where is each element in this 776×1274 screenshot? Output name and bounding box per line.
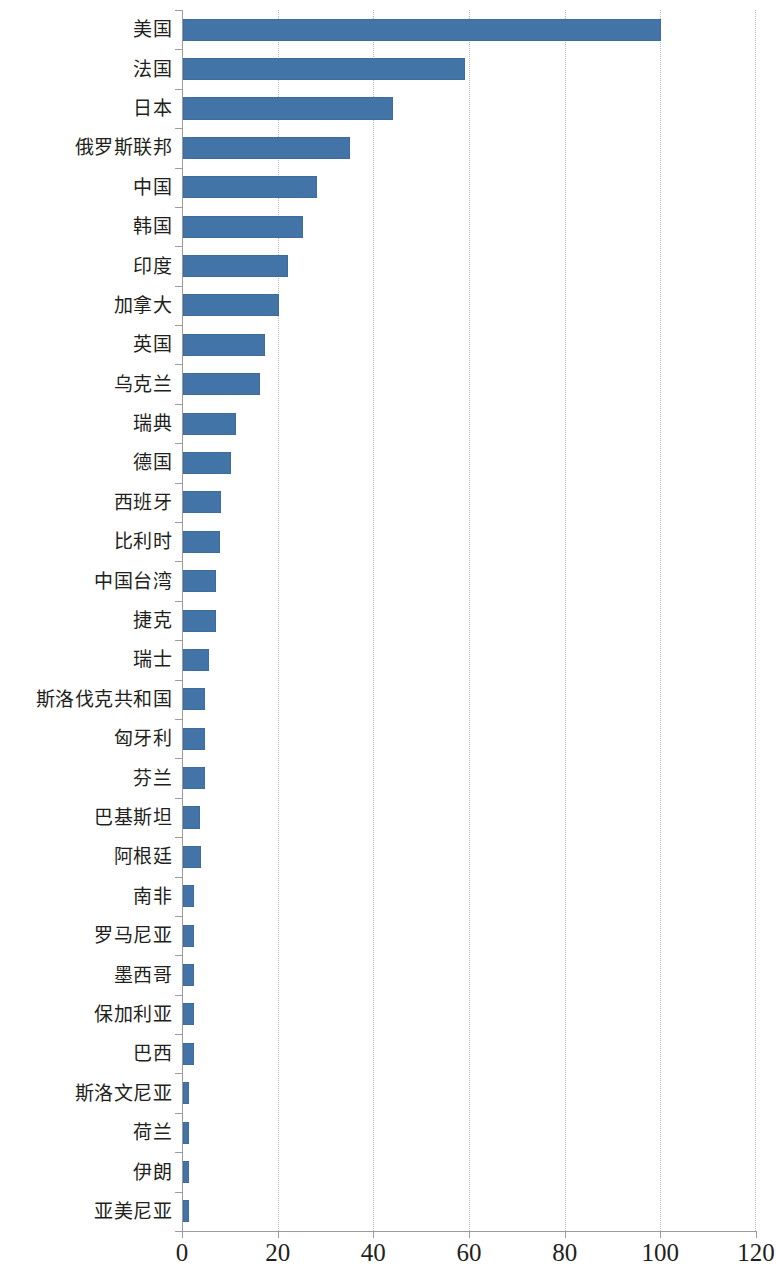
y-axis-tick (175, 561, 182, 562)
bar-row: 韩国 (0, 207, 776, 246)
x-axis-tick-label: 20 (238, 1240, 318, 1265)
bar[interactable] (183, 964, 194, 986)
bar-row: 瑞典 (0, 404, 776, 443)
bar-chart: 美国法国日本俄罗斯联邦中国韩国印度加拿大英国乌克兰瑞典德国西班牙比利时中国台湾捷… (0, 0, 776, 1274)
category-label: 加拿大 (0, 296, 172, 315)
category-label: 墨西哥 (0, 966, 172, 985)
bar-row: 英国 (0, 325, 776, 364)
bar-row: 俄罗斯联邦 (0, 128, 776, 167)
y-axis-tick (175, 483, 182, 484)
y-axis-tick (175, 1231, 182, 1232)
bar-holder (183, 128, 350, 167)
bar[interactable] (183, 97, 393, 119)
category-label: 荷兰 (0, 1123, 172, 1142)
bar-row: 阿根廷 (0, 837, 776, 876)
bar[interactable] (183, 58, 465, 80)
bar[interactable] (183, 728, 205, 750)
bar[interactable] (183, 570, 216, 592)
bar-holder (183, 404, 236, 443)
bar[interactable] (183, 1043, 194, 1065)
bar-row: 比利时 (0, 522, 776, 561)
bar-holder (183, 325, 265, 364)
y-axis-tick (175, 1113, 182, 1114)
x-axis-tick (373, 1231, 374, 1238)
bar[interactable] (183, 491, 221, 513)
bar[interactable] (183, 373, 260, 395)
bar-row: 墨西哥 (0, 955, 776, 994)
bar[interactable] (183, 1200, 189, 1222)
y-axis-tick (175, 877, 182, 878)
bar[interactable] (183, 1003, 194, 1025)
category-label: 印度 (0, 257, 172, 276)
category-label: 斯洛伐克共和国 (0, 690, 172, 709)
y-axis-tick (175, 719, 182, 720)
bar-row: 荷兰 (0, 1113, 776, 1152)
category-label: 南非 (0, 887, 172, 906)
bar-holder (183, 798, 200, 837)
bar[interactable] (183, 531, 220, 553)
category-label: 伊朗 (0, 1163, 172, 1182)
bar-holder (183, 719, 205, 758)
x-axis-tick (660, 1231, 661, 1238)
bar-holder (183, 49, 465, 88)
bar[interactable] (183, 649, 209, 671)
bar[interactable] (183, 19, 661, 41)
x-axis-tick (278, 1231, 279, 1238)
bar-row: 巴基斯坦 (0, 798, 776, 837)
bar-row: 瑞士 (0, 640, 776, 679)
bar[interactable] (183, 610, 216, 632)
bar[interactable] (183, 846, 201, 868)
bar-row: 捷克 (0, 601, 776, 640)
bar[interactable] (183, 1122, 189, 1144)
bar[interactable] (183, 806, 200, 828)
bar-row: 西班牙 (0, 483, 776, 522)
bar-holder (183, 10, 661, 49)
bar-holder (183, 877, 194, 916)
y-axis-tick (175, 798, 182, 799)
category-label: 中国台湾 (0, 572, 172, 591)
bar[interactable] (183, 885, 194, 907)
bar-holder (183, 522, 220, 561)
bar[interactable] (183, 137, 350, 159)
bar-holder (183, 561, 216, 600)
category-label: 芬兰 (0, 769, 172, 788)
y-axis-tick (175, 443, 182, 444)
y-axis-tick (175, 758, 182, 759)
category-label: 韩国 (0, 217, 172, 236)
bar[interactable] (183, 255, 288, 277)
bar[interactable] (183, 294, 279, 316)
y-axis-tick (175, 168, 182, 169)
bar[interactable] (183, 452, 231, 474)
bar[interactable] (183, 925, 194, 947)
y-axis-tick (175, 325, 182, 326)
category-label: 保加利亚 (0, 1005, 172, 1024)
bar-holder (183, 89, 393, 128)
bar-row: 斯洛伐克共和国 (0, 680, 776, 719)
bar-holder (183, 1192, 189, 1231)
bar-row: 印度 (0, 246, 776, 285)
bar[interactable] (183, 334, 265, 356)
bar-holder (183, 916, 194, 955)
bar-holder (183, 601, 216, 640)
bar-row: 保加利亚 (0, 995, 776, 1034)
y-axis-tick (175, 1073, 182, 1074)
bar[interactable] (183, 767, 205, 789)
bar[interactable] (183, 216, 303, 238)
y-axis-tick (175, 1152, 182, 1153)
x-axis-tick-label: 80 (525, 1240, 605, 1265)
category-label: 西班牙 (0, 493, 172, 512)
bar[interactable] (183, 413, 236, 435)
y-axis-tick (175, 522, 182, 523)
category-label: 斯洛文尼亚 (0, 1084, 172, 1103)
y-axis-tick (175, 49, 182, 50)
category-label: 罗马尼亚 (0, 926, 172, 945)
y-axis-tick (175, 1034, 182, 1035)
category-label: 美国 (0, 20, 172, 39)
bar[interactable] (183, 176, 317, 198)
bar[interactable] (183, 1161, 189, 1183)
bar-row: 中国 (0, 168, 776, 207)
bar[interactable] (183, 688, 205, 710)
bar-row: 南非 (0, 877, 776, 916)
y-axis-tick (175, 246, 182, 247)
bar[interactable] (183, 1082, 189, 1104)
